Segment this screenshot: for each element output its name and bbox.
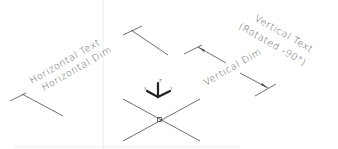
vertical-dim-tick-top <box>184 45 202 54</box>
horizontal-dim-extension-left <box>22 94 63 116</box>
ucs-icon[interactable]: Z X Y <box>144 78 173 97</box>
vertical-dim-label[interactable]: Vertical Dim <box>202 46 264 88</box>
ucs-z-label: Z <box>159 78 162 83</box>
vertical-dim-arrow-bottom <box>261 83 268 88</box>
vertical-dim-arrow-top <box>198 47 205 52</box>
horizontal-dim-tick-left <box>10 93 26 101</box>
ucs-y-axis <box>158 91 170 97</box>
horizontal-dim-extension-right <box>131 30 168 55</box>
cad-drawing-canvas[interactable]: Horizontal Text Horizontal Dim Z X Y Ver… <box>0 0 338 149</box>
vertical-dim-tick-bottom <box>255 84 276 96</box>
ucs-y-label: Y <box>169 86 173 91</box>
horizontal-dimension[interactable] <box>10 26 168 116</box>
ucs-x-label: X <box>144 86 147 91</box>
ucs-x-axis <box>147 91 158 97</box>
horizontal-dim-tick-right <box>123 26 142 35</box>
origin-point-marker[interactable] <box>123 99 200 141</box>
